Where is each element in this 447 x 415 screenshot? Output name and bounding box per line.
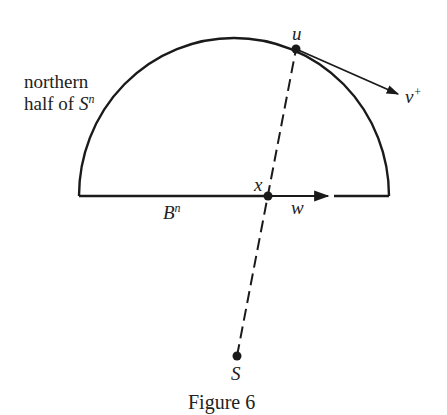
label-u: u [292,24,302,43]
label-northern: northern [24,72,88,91]
label-ball: Bn [163,202,181,222]
label-sphere-sup: n [88,92,94,106]
label-v-sup: + [413,85,421,99]
figure-caption: Figure 6 [188,392,255,412]
point-x [264,192,273,201]
label-s-point: S [231,364,241,383]
point-s [233,352,242,361]
label-w: w [291,198,304,217]
label-b: B [163,202,175,223]
label-ball-sup: n [175,201,181,215]
projection-dashed-line [237,49,296,356]
northern-hemisphere-arc [79,38,389,196]
label-v-plus: v+ [405,86,422,106]
label-half-of-sn: half of Sn [24,93,94,113]
diagram-canvas [0,0,447,415]
label-x: x [254,175,262,194]
label-sphere: S [79,93,89,114]
point-u [292,45,301,54]
label-half-of: half of [24,93,79,114]
